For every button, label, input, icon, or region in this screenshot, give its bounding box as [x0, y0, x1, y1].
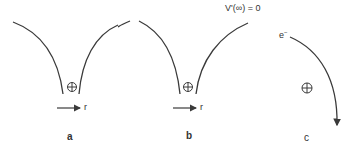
electron-label: e− — [279, 29, 288, 40]
panel-a — [13, 22, 118, 108]
potential-curve-right-b — [196, 23, 248, 94]
panel-label-c: c — [304, 132, 309, 143]
electron-charge: − — [284, 29, 288, 35]
panel-label-b: b — [186, 130, 192, 141]
panel-c — [290, 37, 337, 125]
nucleus-icon — [302, 83, 312, 93]
potential-annotation: V'(∞) = 0 — [225, 3, 260, 13]
panel-b — [118, 21, 248, 108]
nucleus-icon — [68, 83, 77, 92]
potential-curve-left-b — [118, 21, 130, 27]
potential-curve-right-a — [79, 25, 118, 94]
r-axis-label-b: r — [200, 102, 203, 112]
electron-trajectory-arrow-icon — [290, 37, 337, 125]
diagram-canvas — [0, 0, 351, 150]
nucleus-icon — [184, 83, 193, 92]
potential-curve-left-a — [13, 22, 63, 94]
panel-label-a: a — [67, 131, 73, 142]
r-axis-label-a: r — [84, 102, 87, 112]
potential-curve-inner-left-b — [139, 21, 180, 94]
